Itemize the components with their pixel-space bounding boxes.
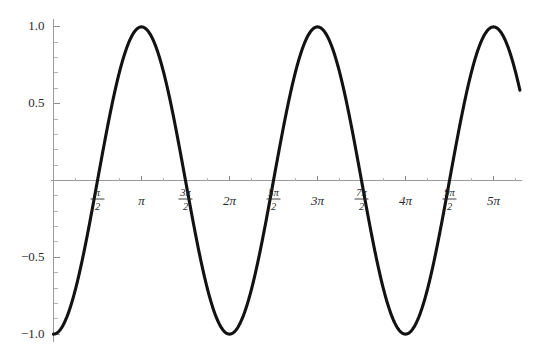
x-tick-label-denominator: 2 — [183, 201, 189, 212]
y-axis-tick-labels: 1.00.5−0.5−1.0 — [21, 18, 45, 340]
y-tick-label: 0.5 — [28, 95, 44, 110]
x-tick-label-numerator: 9π — [444, 187, 455, 198]
x-axis-tick-labels: π2π3π22π5π23π7π24π9π25π — [91, 187, 501, 212]
y-tick-label: −0.5 — [21, 249, 45, 264]
x-tick-label-numerator: 7π — [356, 187, 367, 198]
x-tick-label-denominator: 2 — [95, 201, 101, 212]
x-tick-label-denominator: 2 — [271, 201, 277, 212]
y-tick-label: −1.0 — [21, 326, 45, 341]
x-tick-label: π — [138, 193, 145, 208]
x-tick-label: 4π — [399, 193, 413, 208]
x-tick-label: 5π — [487, 193, 501, 208]
x-tick-label-denominator: 2 — [447, 201, 453, 212]
y-tick-label: 1.0 — [28, 18, 44, 33]
x-tick-label-numerator: 5π — [268, 187, 279, 198]
x-tick-label-numerator: π — [95, 187, 101, 198]
x-tick-label-numerator: 3π — [179, 187, 191, 198]
x-tick-label: 3π — [310, 193, 325, 208]
x-tick-label: 2π — [223, 193, 237, 208]
plot-container: π2π3π22π5π23π7π24π9π25π 1.00.5−0.5−1.0 — [0, 0, 554, 356]
x-tick-label-denominator: 2 — [359, 201, 365, 212]
cosine-plot: π2π3π22π5π23π7π24π9π25π 1.00.5−0.5−1.0 — [0, 0, 554, 356]
